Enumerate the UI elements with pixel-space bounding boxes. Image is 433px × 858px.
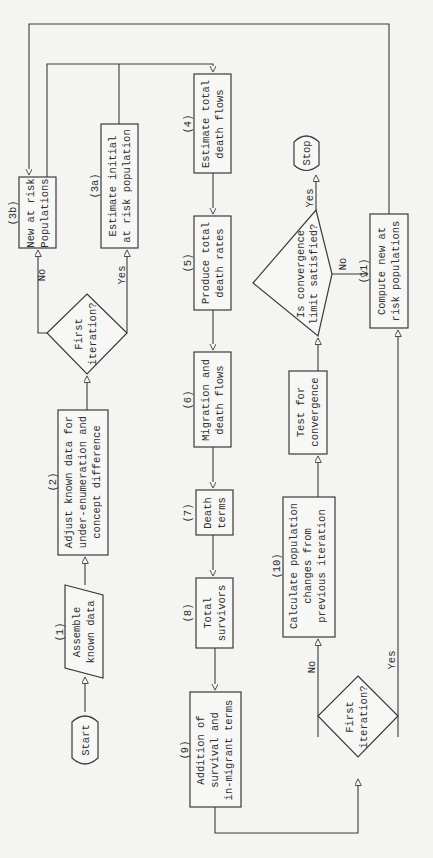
node-5-line: Produce total xyxy=(200,222,212,304)
node-11-compute-new-at-risk: (11) Compute new at risk populations xyxy=(358,214,408,328)
node-7-number: (7) xyxy=(182,504,194,523)
d3-line: limit satisfied? xyxy=(308,224,320,325)
node-test-for-convergence: Test for convergence xyxy=(289,371,327,454)
node-2-number: (2) xyxy=(47,473,59,492)
node-3b-line: Populations xyxy=(39,178,51,247)
d3-yes-label: Yes xyxy=(304,189,316,208)
flowchart: Start (1) Assemble known data (2) Adjust… xyxy=(0,0,433,858)
node-4-number: (4) xyxy=(182,115,194,134)
node-5-line: death rates xyxy=(214,228,226,297)
node-1-line: known data xyxy=(85,600,97,663)
node-4-line: death flows xyxy=(214,89,226,158)
node-10-line: previous iteration xyxy=(316,509,328,622)
node-10-line: Calculate population xyxy=(288,503,300,629)
d1-no-label: No xyxy=(36,269,48,282)
d1-yes-label: Yes xyxy=(116,266,128,285)
node-7-line: Death xyxy=(202,497,214,529)
node-11-line: Compute new at xyxy=(376,227,388,315)
d2-no-label: No xyxy=(306,661,318,674)
node-10-line: changes from xyxy=(302,528,314,604)
d2-line: First xyxy=(344,701,356,733)
node-6-line: death flows xyxy=(214,365,226,434)
node-1-assemble-known-data: (1) Assemble known data xyxy=(54,585,103,678)
node-3b-number: (3b) xyxy=(7,200,19,225)
node-4-line: Estimate total xyxy=(200,80,212,168)
node-9-line: survival and xyxy=(209,712,221,788)
start-terminal: Start xyxy=(72,716,98,764)
node-8-line: Total xyxy=(202,597,214,629)
node-9-line: in-migrant terms xyxy=(223,700,235,801)
node-9-line: Addition of xyxy=(195,715,207,784)
node-2-line: under-enumeration and xyxy=(77,416,89,548)
d1-line: First xyxy=(73,318,85,350)
test-line: Test for xyxy=(295,387,307,437)
node-11-number: (11) xyxy=(358,258,370,283)
node-3a-number: (3a) xyxy=(89,173,101,198)
d2-line: iteration? xyxy=(358,685,370,748)
d3-no-label: No xyxy=(337,258,349,271)
node-2-line: concept difference xyxy=(91,425,103,538)
node-10-calculate-population-changes: (10) Calculate population changes from p… xyxy=(271,497,335,637)
node-1-number: (1) xyxy=(54,623,66,642)
d2-yes-label: Yes xyxy=(386,651,398,670)
node-6-number: (6) xyxy=(182,391,194,410)
d3-line: Is convergence xyxy=(295,230,307,318)
node-5-number: (5) xyxy=(182,254,194,273)
node-9-addition-of-survival: (9) Addition of survival and in-migrant … xyxy=(179,692,241,807)
node-11-line: risk populations xyxy=(390,221,402,322)
stop-terminal: Stop xyxy=(294,136,319,171)
node-9-number: (9) xyxy=(179,741,191,760)
node-2-line: Adjust known data for xyxy=(63,416,75,548)
node-8-number: (8) xyxy=(182,604,194,623)
test-line: convergence xyxy=(309,377,321,446)
node-6-migration-and-death-flows: (6) Migration and death flows xyxy=(182,352,231,447)
node-10-number: (10) xyxy=(271,553,283,578)
node-1-line: Assemble xyxy=(71,607,83,657)
stop-label: Stop xyxy=(301,140,313,165)
decision-convergence-limit: Is convergence limit satisfied? Yes No xyxy=(253,189,349,336)
decision-first-iteration-bottom: First iteration? No Yes xyxy=(306,651,398,757)
node-7-line: terms xyxy=(216,497,228,529)
node-3a-estimate-initial: (3a) Estimate initial at risk population xyxy=(89,124,138,248)
node-7-death-terms: (7) Death terms xyxy=(182,490,233,535)
node-8-line: survivors xyxy=(216,585,228,642)
node-3a-line: at risk population xyxy=(121,129,133,242)
d1-line: iteration? xyxy=(87,302,99,365)
node-6-line: Migration and xyxy=(200,359,212,441)
node-3b-new-at-risk: (3b) New at risk Populations xyxy=(7,177,56,248)
decision-first-iteration-top: First iteration? No Yes xyxy=(36,266,128,374)
node-3b-line: New at risk xyxy=(25,178,37,247)
node-4-estimate-total-death-flows: (4) Estimate total death flows xyxy=(182,74,231,173)
node-3a-line: Estimate initial xyxy=(107,136,119,237)
node-5-produce-total-death-rates: (5) Produce total death rates xyxy=(182,216,231,310)
start-label: Start xyxy=(80,724,92,756)
node-2-adjust-known-data: (2) Adjust known data for under-enumerat… xyxy=(47,410,108,555)
node-8-total-survivors: (8) Total survivors xyxy=(182,578,233,648)
